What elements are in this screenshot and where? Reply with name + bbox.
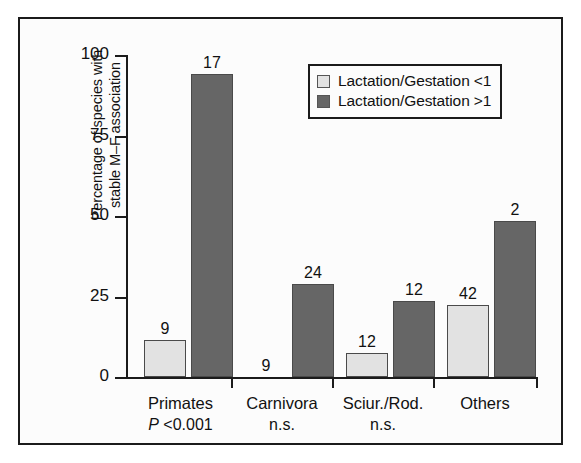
bar-primates-lactation-lt1[interactable] <box>144 340 186 377</box>
bar-label-carnivora-lactation-lt1: 9 <box>245 357 287 375</box>
y-tick-label-50: 50 <box>90 205 109 225</box>
legend-label-lactation-lt1: Lactation/Gestation <1 <box>338 72 491 90</box>
bar-others-lactation-gt1[interactable] <box>494 221 536 377</box>
bar-sciuridae-rodentia-lactation-lt1[interactable] <box>346 353 388 377</box>
figure-frame: Percentage of species with stable M–F as… <box>18 17 563 445</box>
y-tick-label-25: 25 <box>90 286 109 306</box>
legend-item-lactation-gt1[interactable]: Lactation/Gestation >1 <box>317 91 491 111</box>
x-group-name-primates: Primates <box>148 394 213 412</box>
x-group-sublabel-primates: P <0.001 <box>128 414 233 435</box>
bar-label-sciuridae-rodentia-lactation-gt1: 12 <box>393 281 435 299</box>
y-tick-0: 0 <box>115 377 126 379</box>
y-tick-25: 25 <box>115 297 126 299</box>
x-group-name-others: Others <box>460 394 510 412</box>
bar-carnivora-lactation-gt1[interactable] <box>292 284 334 377</box>
x-axis-separator-4 <box>536 377 538 388</box>
x-group-label-sciuridae-rodentia: Sciur./Rod. n.s. <box>332 393 434 435</box>
bar-label-primates-lactation-gt1: 17 <box>191 54 233 72</box>
bar-label-sciuridae-rodentia-lactation-lt1: 12 <box>346 333 388 351</box>
y-tick-label-100: 100 <box>81 44 109 64</box>
x-group-label-others: Others <box>433 393 537 414</box>
y-tick-label-75: 75 <box>90 125 109 145</box>
x-group-name-sciuridae-rodentia: Sciur./Rod. <box>343 394 424 412</box>
x-group-sublabel-sciuridae-rodentia: n.s. <box>332 414 434 435</box>
x-group-label-carnivora: Carnivora n.s. <box>231 393 333 435</box>
x-axis-separator-1 <box>231 377 233 388</box>
bar-primates-lactation-gt1[interactable] <box>191 74 233 377</box>
x-group-sublabel-primates-italic: P <box>148 416 159 433</box>
legend-item-lactation-lt1[interactable]: Lactation/Gestation <1 <box>317 71 491 91</box>
x-group-label-primates: Primates P <0.001 <box>128 393 233 435</box>
x-group-sublabel-carnivora: n.s. <box>231 414 333 435</box>
bar-label-others-lactation-lt1: 42 <box>447 285 489 303</box>
x-group-sublabel-primates-rest: <0.001 <box>159 416 213 433</box>
legend-swatch-icon-lactation-gt1 <box>317 95 330 108</box>
bar-label-primates-lactation-lt1: 9 <box>144 320 186 338</box>
figure-container: Percentage of species with stable M–F as… <box>0 0 581 463</box>
y-tick-50: 50 <box>115 216 126 218</box>
y-tick-75: 75 <box>115 136 126 138</box>
bar-label-others-lactation-gt1: 2 <box>494 201 536 219</box>
bar-sciuridae-rodentia-lactation-gt1[interactable] <box>393 301 435 377</box>
y-tick-label-0: 0 <box>100 366 109 386</box>
x-axis-separator-3 <box>433 377 435 388</box>
legend-swatch-icon-lactation-lt1 <box>317 75 330 88</box>
x-axis-separator-2 <box>332 377 334 388</box>
y-tick-100: 100 <box>115 55 126 57</box>
x-group-name-carnivora: Carnivora <box>246 394 318 412</box>
bar-label-carnivora-lactation-gt1: 24 <box>292 264 334 282</box>
bar-others-lactation-lt1[interactable] <box>447 305 489 377</box>
legend: Lactation/Gestation <1 Lactation/Gestati… <box>308 64 502 119</box>
legend-label-lactation-gt1: Lactation/Gestation >1 <box>338 92 491 110</box>
